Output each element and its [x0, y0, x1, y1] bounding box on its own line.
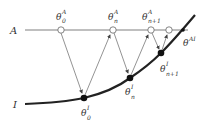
arrow-a0-i0: [61, 33, 82, 93]
arrow-an1-in1: [152, 33, 159, 49]
point-thetan1A: [148, 27, 154, 33]
svg-text:n: n: [131, 93, 135, 100]
svg-text:0: 0: [62, 17, 66, 24]
iteration-arrows: [61, 33, 167, 95]
svg-text:A: A: [113, 8, 119, 15]
label-thetan1A: θ A n+1: [142, 8, 161, 24]
svg-text:n: n: [114, 17, 118, 24]
arrow-i0-an: [85, 35, 110, 95]
iteration-diagram: A I θ A 0 θ A n θ A n+1 θ AI θ I 0 θ I n…: [0, 0, 207, 126]
diagram-canvas: A I θ A 0 θ A n θ A n+1 θ AI θ I 0 θ I n…: [0, 0, 207, 126]
svg-text:A: A: [61, 8, 67, 15]
svg-text:A: A: [147, 8, 153, 15]
svg-text:0: 0: [87, 114, 91, 121]
label-I: I: [12, 99, 18, 110]
point-theta0I: [81, 95, 88, 102]
arrow-an-in: [114, 33, 128, 73]
label-theta0I: θ I 0: [81, 104, 91, 121]
label-theta0A: θ A 0: [56, 8, 67, 24]
label-thetanA: θ A n: [108, 8, 119, 24]
label-thetanI: θ I n: [125, 83, 135, 100]
arrow-in-an1: [131, 35, 148, 75]
label-thetan1I: θ I n+1: [160, 60, 179, 77]
svg-text:AI: AI: [188, 35, 196, 42]
svg-text:I: I: [86, 104, 90, 111]
label-thetaAI: θ AI: [183, 35, 196, 48]
point-thetanI: [127, 75, 134, 82]
point-theta0A: [58, 27, 64, 33]
svg-text:n+1: n+1: [148, 17, 161, 24]
point-next-A: [166, 27, 172, 33]
svg-text:n+1: n+1: [166, 70, 179, 77]
svg-text:I: I: [165, 60, 169, 67]
point-thetaAI: [181, 28, 185, 32]
label-A: A: [9, 25, 17, 36]
point-thetanA: [110, 27, 116, 33]
point-thetan1I: [158, 50, 165, 57]
svg-text:I: I: [130, 83, 134, 90]
